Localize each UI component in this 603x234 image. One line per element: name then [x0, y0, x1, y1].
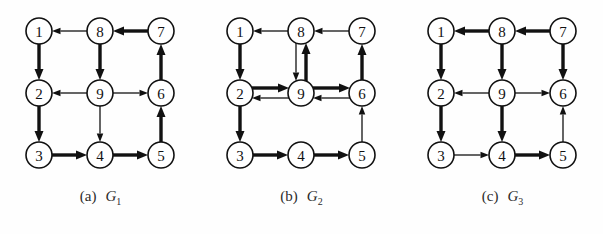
node-label-6: 6 [559, 86, 567, 102]
graph-node-7[interactable]: 7 [148, 18, 174, 44]
node-label-8: 8 [498, 24, 506, 40]
arrow-head-5-to-6 [157, 106, 166, 117]
graph-drawing-G2: 187296345 [201, 0, 402, 186]
node-label-5: 5 [157, 148, 165, 164]
arrow-head-5-to-6 [359, 106, 366, 115]
graph-panel-b: 187296345(b)G2 [201, 0, 402, 234]
graph-node-9[interactable]: 9 [489, 80, 515, 106]
graph-node-3[interactable]: 3 [227, 142, 253, 168]
graph-node-4[interactable]: 4 [87, 142, 113, 168]
graph-node-9[interactable]: 9 [288, 80, 314, 106]
node-label-9: 9 [96, 86, 104, 102]
graph-node-1[interactable]: 1 [428, 18, 454, 44]
arrow-head-9-to-6 [140, 90, 149, 97]
arrow-head-8-to-1 [52, 28, 61, 35]
graph-node-7[interactable]: 7 [349, 18, 375, 44]
node-label-8: 8 [297, 24, 305, 40]
arrow-head-7-to-6 [559, 69, 568, 80]
arrow-head-8-to-9 [96, 69, 105, 80]
arrow-head-1-to-2 [236, 69, 245, 80]
graph-node-2[interactable]: 2 [428, 80, 454, 106]
node-label-7: 7 [157, 24, 165, 40]
graph-node-3[interactable]: 3 [428, 142, 454, 168]
arrow-head-3-to-4 [277, 151, 288, 160]
graph-node-3[interactable]: 3 [26, 142, 52, 168]
graph-node-2[interactable]: 2 [227, 80, 253, 106]
arrow-head-9-to-4 [498, 131, 507, 142]
caption-graph-letter-b: G [307, 188, 318, 204]
graph-node-5[interactable]: 5 [550, 142, 576, 168]
graph-node-6[interactable]: 6 [550, 80, 576, 106]
caption-graph-letter-c: G [507, 188, 518, 204]
node-label-1: 1 [236, 24, 244, 40]
panel-caption-a: (a)G1 [0, 186, 201, 212]
graph-node-7[interactable]: 7 [550, 18, 576, 44]
graph-node-9[interactable]: 9 [87, 80, 113, 106]
arrow-head-8-to-1 [253, 28, 262, 35]
figure-container: 187296345(a)G1187296345(b)G2187296345(c)… [0, 0, 603, 234]
node-label-4: 4 [96, 148, 104, 164]
node-label-3: 3 [236, 148, 244, 164]
caption-graph-subscript-a: 1 [116, 196, 121, 207]
graph-node-5[interactable]: 5 [148, 142, 174, 168]
node-label-6: 6 [358, 86, 366, 102]
arrow-head-9-to-6 [542, 90, 551, 97]
arrow-head-3-to-4 [76, 151, 87, 160]
arrow-head-3-to-4 [481, 152, 490, 159]
node-label-9: 9 [297, 86, 305, 102]
node-label-8: 8 [96, 24, 104, 40]
caption-tag-a: (a) [80, 188, 97, 204]
graph-node-4[interactable]: 4 [489, 142, 515, 168]
graph-node-1[interactable]: 1 [227, 18, 253, 44]
graph-node-8[interactable]: 8 [87, 18, 113, 44]
graph-drawing-G3: 187296345 [402, 0, 603, 186]
graph-svg-G1: 187296345 [0, 0, 201, 186]
caption-graph-subscript-b: 2 [318, 196, 323, 207]
graph-panel-c: 187296345(c)G3 [402, 0, 603, 234]
node-label-5: 5 [559, 148, 567, 164]
arrow-head-6-to-7 [358, 44, 367, 55]
arrow-head-9-to-2 [454, 90, 463, 97]
node-label-1: 1 [437, 24, 445, 40]
graph-node-2[interactable]: 2 [26, 80, 52, 106]
graph-drawing-G1: 187296345 [0, 0, 201, 186]
graph-node-5[interactable]: 5 [349, 142, 375, 168]
arrow-head-7-to-8 [314, 28, 323, 35]
arrow-head-4-to-5 [137, 151, 148, 160]
caption-graph-name-b: G2 [307, 188, 323, 204]
caption-graph-subscript-c: 3 [518, 196, 523, 207]
node-label-7: 7 [559, 24, 567, 40]
node-label-6: 6 [157, 86, 165, 102]
caption-graph-name-a: G1 [105, 188, 121, 204]
graph-node-1[interactable]: 1 [26, 18, 52, 44]
arrow-head-1-to-2 [437, 69, 446, 80]
node-label-3: 3 [437, 148, 445, 164]
graph-node-4[interactable]: 4 [288, 142, 314, 168]
node-label-7: 7 [358, 24, 366, 40]
node-label-4: 4 [498, 148, 506, 164]
arrow-head-5-to-6 [560, 106, 567, 115]
arrow-head-7-to-8 [515, 27, 526, 36]
graph-node-6[interactable]: 6 [148, 80, 174, 106]
node-label-5: 5 [358, 148, 366, 164]
arrow-head-2-to-3 [35, 131, 44, 142]
caption-graph-name-c: G3 [507, 188, 523, 204]
graph-node-8[interactable]: 8 [489, 18, 515, 44]
node-label-2: 2 [437, 86, 445, 102]
graph-svg-G3: 187296345 [402, 0, 603, 186]
arrow-head-7-to-8 [113, 27, 124, 36]
arrow-head-2-to-3 [437, 131, 446, 142]
node-label-2: 2 [236, 86, 244, 102]
node-label-3: 3 [35, 148, 43, 164]
arrow-head-4-to-5 [539, 151, 550, 160]
graph-node-8[interactable]: 8 [288, 18, 314, 44]
graph-svg-G2: 187296345 [201, 0, 402, 186]
arrow-head-8-to-9 [498, 69, 507, 80]
arrow-head-2-to-3 [236, 131, 245, 142]
arrow-head-1-to-2 [35, 69, 44, 80]
caption-graph-letter-a: G [105, 188, 116, 204]
node-label-4: 4 [297, 148, 305, 164]
caption-tag-c: (c) [482, 188, 499, 204]
graph-panel-a: 187296345(a)G1 [0, 0, 201, 234]
graph-node-6[interactable]: 6 [349, 80, 375, 106]
